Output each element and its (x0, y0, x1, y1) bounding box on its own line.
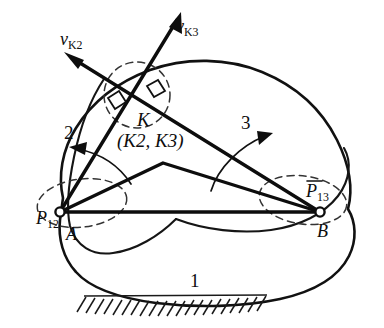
joint-label-b: B (317, 222, 328, 240)
body-label-1: 1 (190, 271, 200, 290)
rotation-arrow-body-3 (211, 136, 265, 191)
right-angle-marker-right (147, 80, 165, 97)
rotation-arrow-3-head (257, 131, 273, 145)
vk2-arrow-head (64, 52, 84, 69)
joint-label-a: A (66, 225, 77, 243)
velocity-label-vk2: vK2 (60, 30, 83, 48)
body-label-2: 2 (64, 123, 74, 142)
instant-center-label-p12: P12 (36, 209, 59, 227)
instant-center-label-p13: P13 (306, 182, 329, 200)
velocity-label-vk3: vK3 (176, 17, 199, 35)
joint-b-marker (315, 207, 324, 216)
point-label-k: K (137, 110, 150, 129)
body-label-3: 3 (241, 113, 251, 132)
point-label-k-pair: (K2, K3) (117, 131, 184, 150)
kinematic-diagram-figure: vK2 vK3 K (K2, K3) 2 3 1 P12 P13 A B (0, 0, 384, 328)
